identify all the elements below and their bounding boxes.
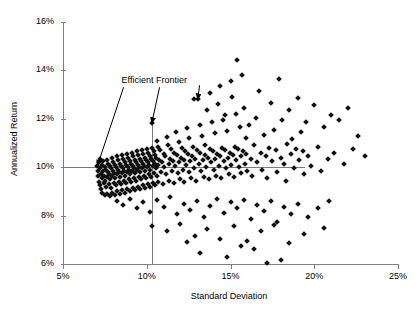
efficient-frontier-label: Efficient Frontier	[122, 75, 187, 85]
x-tick	[63, 264, 64, 269]
y-tick-label: 10%	[28, 162, 54, 171]
x-tick-label: 5%	[43, 272, 83, 281]
x-tick	[147, 264, 148, 269]
x-tick	[231, 264, 232, 269]
x-tick	[314, 264, 315, 269]
chart-container: 6%8%10%12%14%16% 5%10%15%20%25% Efficien…	[0, 0, 418, 318]
y-tick-label: 8%	[28, 211, 54, 220]
y-tick-label: 12%	[28, 114, 54, 123]
x-axis-title: Standard Deviation	[129, 291, 329, 301]
x-tick	[398, 264, 399, 269]
y-tick	[61, 216, 66, 217]
x-tick-label: 15%	[211, 272, 251, 281]
y-tick-label: 6%	[28, 259, 54, 268]
y-tick	[61, 70, 66, 71]
y-axis-title: Annualized Return	[9, 79, 19, 199]
y-axis-line	[63, 22, 64, 265]
x-tick-label: 25%	[378, 272, 418, 281]
y-tick-label: 16%	[28, 17, 54, 26]
y-tick	[61, 119, 66, 120]
plot-area	[63, 22, 398, 264]
y-tick-label: 14%	[28, 65, 54, 74]
x-tick-label: 10%	[127, 272, 167, 281]
y-tick	[61, 22, 66, 23]
x-tick-label: 20%	[294, 272, 334, 281]
